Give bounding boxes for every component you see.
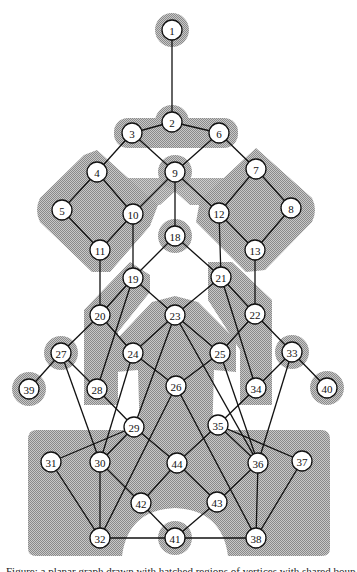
node-label: 12 — [214, 208, 225, 220]
node-3: 3 — [122, 123, 142, 143]
node-label: 2 — [169, 117, 175, 129]
node-19: 19 — [123, 268, 143, 288]
node-13: 13 — [245, 240, 265, 260]
node-label: 23 — [170, 310, 182, 322]
node-9: 9 — [165, 162, 185, 182]
node-38: 38 — [246, 528, 266, 548]
node-label: 21 — [216, 272, 227, 284]
node-label: 10 — [128, 209, 140, 221]
node-label: 41 — [170, 533, 181, 545]
node-label: 28 — [92, 384, 104, 396]
node-label: 40 — [322, 383, 334, 395]
node-6: 6 — [209, 123, 229, 143]
node-37: 37 — [292, 451, 312, 471]
node-label: 32 — [95, 533, 106, 545]
node-24: 24 — [123, 343, 143, 363]
node-32: 32 — [90, 528, 110, 548]
node-label: 25 — [215, 348, 227, 360]
node-label: 42 — [136, 498, 147, 510]
node-label: 11 — [95, 245, 106, 257]
node-21: 21 — [211, 267, 231, 287]
node-42: 42 — [131, 493, 151, 513]
node-27: 27 — [51, 343, 71, 363]
node-label: 13 — [250, 245, 262, 257]
node-label: 20 — [95, 310, 107, 322]
node-29: 29 — [124, 417, 144, 437]
node-label: 43 — [212, 497, 224, 509]
node-label: 3 — [129, 128, 135, 140]
node-30: 30 — [90, 452, 110, 472]
node-33: 33 — [282, 342, 302, 362]
node-26: 26 — [166, 376, 186, 396]
node-39: 39 — [19, 379, 39, 399]
node-label: 22 — [250, 309, 261, 321]
node-label: 26 — [171, 381, 183, 393]
node-label: 1 — [169, 25, 175, 37]
node-2: 2 — [162, 112, 182, 132]
node-7: 7 — [246, 159, 266, 179]
node-label: 36 — [253, 458, 265, 470]
node-label: 7 — [253, 164, 259, 176]
node-28: 28 — [87, 379, 107, 399]
node-4: 4 — [87, 162, 107, 182]
node-1: 1 — [162, 20, 182, 40]
node-label: 19 — [128, 273, 140, 285]
node-36: 36 — [248, 453, 268, 473]
node-label: 44 — [172, 458, 184, 470]
node-label: 39 — [24, 384, 36, 396]
node-18: 18 — [165, 226, 185, 246]
node-label: 38 — [251, 533, 263, 545]
node-label: 18 — [170, 231, 182, 243]
node-44: 44 — [167, 453, 187, 473]
node-22: 22 — [245, 304, 265, 324]
node-31: 31 — [41, 452, 61, 472]
node-label: 4 — [94, 167, 100, 179]
node-label: 9 — [172, 167, 178, 179]
node-label: 29 — [129, 422, 141, 434]
node-40: 40 — [317, 378, 337, 398]
node-label: 33 — [287, 347, 299, 359]
node-label: 35 — [213, 420, 225, 432]
node-25: 25 — [210, 343, 230, 363]
node-43: 43 — [207, 492, 227, 512]
node-23: 23 — [165, 305, 185, 325]
node-5: 5 — [52, 200, 72, 220]
node-10: 10 — [123, 204, 143, 224]
node-label: 27 — [56, 348, 68, 360]
node-label: 5 — [59, 205, 65, 217]
node-label: 6 — [216, 128, 222, 140]
node-label: 34 — [251, 383, 263, 395]
node-35: 35 — [208, 415, 228, 435]
figure-caption: Figure: a planar graph drawn with hatche… — [6, 563, 356, 572]
node-8: 8 — [281, 198, 301, 218]
node-41: 41 — [165, 528, 185, 548]
node-20: 20 — [90, 305, 110, 325]
graph-diagram: 1234567891011121318192021222324252627282… — [0, 0, 357, 572]
node-label: 30 — [95, 457, 107, 469]
node-label: 37 — [297, 456, 309, 468]
node-label: 24 — [128, 348, 140, 360]
node-34: 34 — [246, 378, 266, 398]
node-11: 11 — [90, 240, 110, 260]
node-label: 31 — [46, 457, 57, 469]
node-12: 12 — [209, 203, 229, 223]
node-label: 8 — [288, 203, 294, 215]
